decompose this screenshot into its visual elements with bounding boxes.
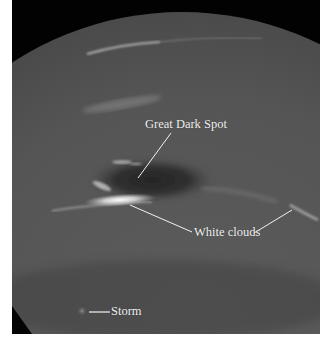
storm-label: Storm	[111, 305, 142, 318]
great-dark-spot-label: Great Dark Spot	[145, 118, 227, 131]
white-clouds-label: White clouds	[194, 226, 260, 239]
neptune-photo: Great Dark Spot White clouds Storm	[12, 0, 320, 334]
storm-spot	[77, 306, 87, 316]
neptune-image	[12, 0, 320, 334]
